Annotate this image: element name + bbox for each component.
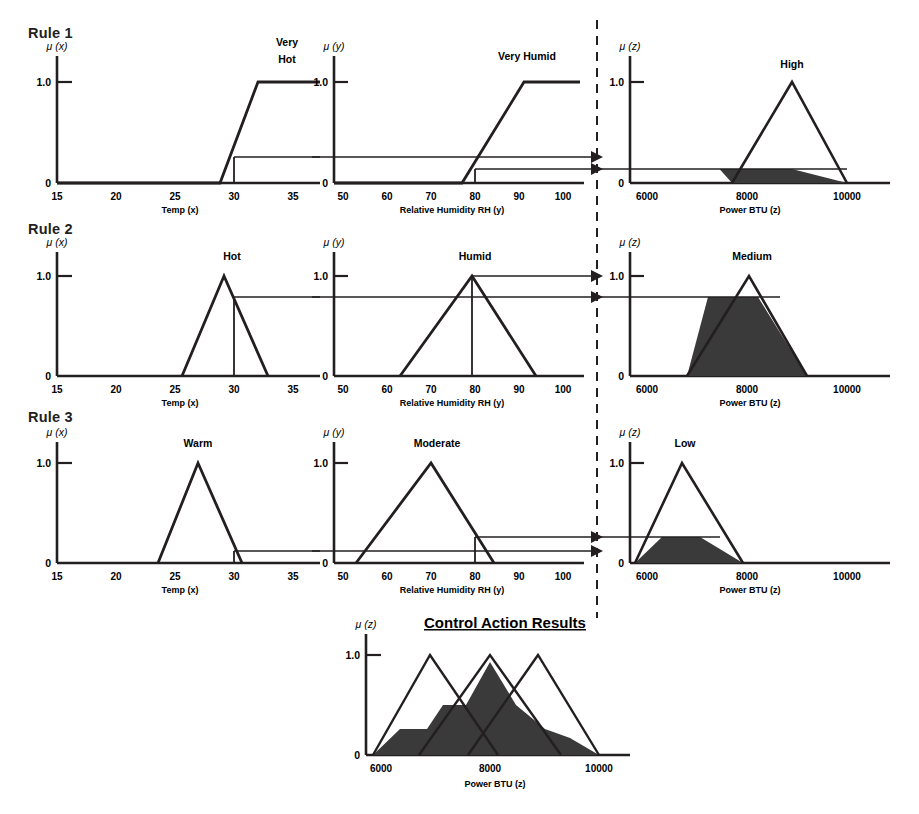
rule-1-power-y-axis-title: μ (z) (619, 40, 641, 52)
rule-2-hot-membership-curve (182, 276, 268, 376)
rule-1-very-humid-label: Very Humid (498, 50, 556, 62)
rule-3-temp-x-tick-35: 35 (287, 571, 299, 582)
rule-2-rh-y-tick-label-0: 0 (322, 370, 328, 382)
rule-1-temp-x-axis-title: Temp (x) (162, 205, 199, 215)
rule-2-rh-x-axis-title: Relative Humidity RH (y) (400, 398, 505, 408)
aggregate-y-tick-label-0: 0 (354, 749, 360, 761)
rule-1-rh-x-tick-100: 100 (555, 191, 572, 202)
rule-1-temp-x-tick-15: 15 (51, 191, 63, 202)
rule-2-rh-x-tick-100: 100 (555, 384, 572, 395)
aggregate-x-tick-8000: 8000 (479, 763, 502, 774)
rule-2-rh-x-tick-80: 80 (469, 384, 481, 395)
rule-3-rh-x-tick-80: 80 (469, 571, 481, 582)
rule-1-temp-x-tick-35: 35 (287, 191, 299, 202)
aggregate-y-axis-title: μ (z) (355, 618, 377, 630)
rule-3-power-x-tick-10000: 10000 (833, 571, 861, 582)
rule-1-very-hot-membership-curve (57, 82, 320, 183)
rule-3-rh-x-tick-70: 70 (425, 571, 437, 582)
rule-3-warm-label: Warm (184, 437, 213, 449)
rule-2-temp-y-axis-title: μ (x) (46, 236, 68, 248)
rule-1-rh-y-axis-title: μ (y) (323, 40, 345, 52)
rule-3-temp-x-tick-25: 25 (169, 571, 181, 582)
rule-2-medium-label: Medium (732, 250, 772, 262)
rule-3-power-y-tick-label-1: 1.0 (609, 457, 624, 469)
rule-1-temp-y-tick-label-0: 0 (45, 177, 51, 189)
rule-1-temp-panel: μ (x) 1.0 0 15 20 25 30 35 Temp (x) Very… (20, 38, 320, 213)
rule-3-temp-x-tick-30: 30 (228, 571, 240, 582)
rule-1-very-humid-membership-curve (334, 82, 580, 183)
aggregate-x-axis-title: Power BTU (z) (464, 779, 525, 789)
rule-1-temp-y-axis-title: μ (x) (46, 40, 68, 52)
rule-3-power-panel: μ (z) 1.0 0 6000 8000 10000 Power BTU (z… (600, 424, 910, 596)
rule-1-rh-panel: μ (y) 1.0 0 50 60 70 80 90 100 Relative … (312, 38, 602, 213)
rule-3-rh-panel: μ (y) 1.0 0 50 60 70 80 90 100 Relative … (312, 424, 602, 596)
rule-3-rh-y-tick-label-1: 1.0 (313, 457, 328, 469)
rule-1-temp-y-tick-label-1: 1.0 (36, 76, 51, 88)
rule-2-rh-x-tick-60: 60 (381, 384, 393, 395)
aggregate-x-tick-6000: 6000 (370, 763, 393, 774)
rule-1-rh-x-tick-80: 80 (469, 191, 481, 202)
rule-1-temp-x-tick-25: 25 (169, 191, 181, 202)
rule-3-power-x-tick-6000: 6000 (636, 571, 659, 582)
rule-1-rh-x-tick-50: 50 (337, 191, 349, 202)
rule-2-power-x-tick-6000: 6000 (636, 384, 659, 395)
rule-1-very-hot-label-line1: Very (276, 36, 298, 48)
rule-2-temp-x-axis-title: Temp (x) (162, 398, 199, 408)
rule-3-temp-panel: μ (x) 1.0 0 15 20 25 30 35 Temp (x) Warm (20, 424, 320, 596)
rule-3-moderate-label: Moderate (414, 437, 461, 449)
rule-2-temp-x-tick-25: 25 (169, 384, 181, 395)
rule-2-power-y-tick-label-0: 0 (618, 370, 624, 382)
figure-canvas: Rule 1 μ (x) 1.0 0 15 20 25 30 35 Temp (… (0, 0, 919, 814)
rule-1-rh-y-tick-label-0: 0 (322, 177, 328, 189)
rule-3-power-y-tick-label-0: 0 (618, 557, 624, 569)
rule-3-rh-y-tick-label-0: 0 (322, 557, 328, 569)
rule-1-rh-x-axis-title: Relative Humidity RH (y) (400, 205, 505, 215)
rule-2-hot-label: Hot (223, 250, 241, 262)
rule-3-rh-y-axis-title: μ (y) (323, 426, 345, 438)
rule-3-temp-x-tick-15: 15 (51, 571, 63, 582)
rule-3-low-label: Low (675, 437, 697, 449)
rule-2-rh-x-tick-50: 50 (337, 384, 349, 395)
figure-caption (58, 793, 758, 813)
rule-3-moderate-membership-curve (356, 463, 494, 563)
rule-3-rh-x-tick-90: 90 (513, 571, 525, 582)
rule-2-power-x-axis-title: Power BTU (z) (719, 398, 780, 408)
rule-2-medium-alpha-cut-fill (687, 297, 807, 376)
rule-2-rh-x-tick-70: 70 (425, 384, 437, 395)
rule-2-temp-x-tick-15: 15 (51, 384, 63, 395)
rule-1-power-x-axis-title: Power BTU (z) (719, 205, 780, 215)
rule-2-humid-membership-curve (400, 276, 536, 376)
rule-2-humid-label: Humid (459, 250, 492, 262)
rule-2-power-y-tick-label-1: 1.0 (609, 270, 624, 282)
rule-1-rh-x-tick-70: 70 (425, 191, 437, 202)
rule-3-temp-x-tick-20: 20 (110, 571, 122, 582)
rule-3-warm-membership-curve (158, 463, 242, 563)
rule-1-power-y-tick-label-1: 1.0 (609, 76, 624, 88)
rule-2-rh-panel: μ (y) 1.0 0 50 60 70 80 90 100 Relative … (312, 234, 602, 406)
rule-3-temp-y-axis-title: μ (x) (46, 426, 68, 438)
rule-1-power-x-tick-6000: 6000 (636, 191, 659, 202)
rule-1-power-x-tick-10000: 10000 (833, 191, 861, 202)
rule-1-rh-x-tick-90: 90 (513, 191, 525, 202)
rule-3-rh-x-axis-title: Relative Humidity RH (y) (400, 585, 505, 595)
rule-3-temp-x-axis-title: Temp (x) (162, 585, 199, 595)
rule-3-power-x-tick-8000: 8000 (736, 571, 759, 582)
rule-3-power-x-axis-title: Power BTU (z) (719, 585, 780, 595)
rule-2-temp-x-tick-20: 20 (110, 384, 122, 395)
rule-1-rh-y-tick-label-1: 1.0 (313, 76, 328, 88)
rule-1-high-label: High (780, 58, 803, 70)
rule-1-high-membership-curve (732, 82, 847, 183)
rule-3-label: Rule 3 (28, 409, 73, 425)
rule-1-temp-x-tick-20: 20 (110, 191, 122, 202)
aggregate-union-fill (373, 662, 599, 755)
rule-2-power-panel: μ (z) 1.0 0 6000 8000 10000 Power BTU (z… (600, 234, 910, 406)
rule-2-power-y-axis-title: μ (z) (619, 236, 641, 248)
rule-3-temp-y-tick-label-0: 0 (45, 557, 51, 569)
aggregate-x-tick-10000: 10000 (585, 763, 613, 774)
rule-1-power-x-tick-8000: 8000 (736, 191, 759, 202)
control-action-results-panel: Control Action Results μ (z) 1.0 0 6000 … (330, 612, 650, 792)
rule-1-temp-x-tick-30: 30 (228, 191, 240, 202)
rule-2-power-x-tick-10000: 10000 (833, 384, 861, 395)
rule-2-power-x-tick-8000: 8000 (736, 384, 759, 395)
rule-2-rh-y-axis-title: μ (y) (323, 236, 345, 248)
